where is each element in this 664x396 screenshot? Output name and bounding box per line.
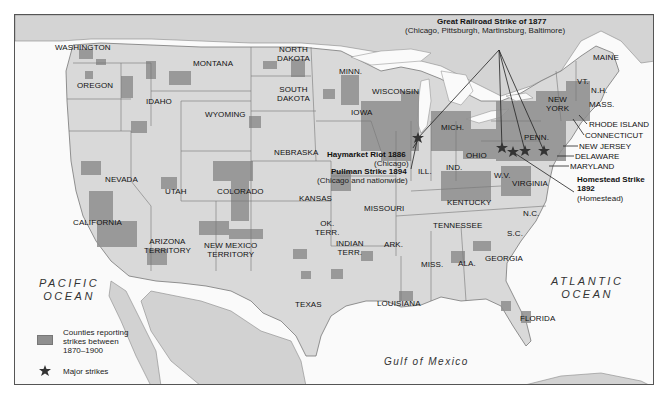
state-label-ala: ALA. <box>458 259 476 268</box>
state-label-kentucky: KENTUCKY <box>447 198 491 207</box>
state-label-montana: MONTANA <box>193 59 233 68</box>
legend-star-icon <box>39 365 51 377</box>
strike-label-haymarket: Haymarket Riot 1886 <box>327 150 406 159</box>
strike-sub-homestead: (Homestead) <box>577 194 623 203</box>
state-label-wisconsin: WISCONSIN <box>372 87 419 96</box>
ocean-label-pacific: PACIFIC OCEAN <box>39 277 99 303</box>
state-label-arizona: ARIZONA TERRITORY <box>144 237 191 255</box>
state-label-louisiana: LOUISIANA <box>377 299 421 308</box>
state-label-penn: PENN. <box>524 133 549 142</box>
state-label-texas: TEXAS <box>295 300 322 309</box>
callout-maryland: MARYLAND <box>570 162 614 171</box>
state-label-nc: N.C. <box>523 209 539 218</box>
legend-major-strikes-label: Major strikes <box>63 367 108 376</box>
state-label-vt: VT. <box>577 77 589 86</box>
callout-connecticut: CONNECTICUT <box>585 131 643 140</box>
state-label-georgia: GEORGIA <box>485 254 523 263</box>
state-label-virginia: VIRGINIA <box>512 179 548 188</box>
state-label-mich: MICH. <box>441 123 464 132</box>
callout-delaware: DELAWARE <box>575 152 619 161</box>
ocean-label-atlantic: ATLANTIC OCEAN <box>551 275 623 301</box>
state-label-ill: ILL. <box>418 167 432 176</box>
gulf-label: Gulf of Mexico <box>384 356 469 367</box>
state-label-indian-terr: INDIAN TERR. <box>336 239 364 257</box>
callout-rhode-island: RHODE ISLAND <box>589 120 649 129</box>
state-label-california: CALIFORNIA <box>73 218 122 227</box>
state-label-idaho: IDAHO <box>146 97 172 106</box>
cuba-landmass <box>521 373 651 385</box>
state-label-ohio: OHIO <box>466 151 487 160</box>
state-label-washington: WASHINGTON <box>55 43 111 52</box>
strike-label-pullman: Pullman Strike 1894 <box>331 167 407 176</box>
state-label-utah: UTAH <box>165 187 187 196</box>
strike-sub-pullman: (Chicago and nationwide) <box>317 176 408 185</box>
state-label-nebraska: NEBRASKA <box>274 148 318 157</box>
legend-counties-label: Counties reporting strikes between 1870–… <box>63 328 128 355</box>
state-label-mass: MASS. <box>589 100 614 109</box>
state-label-wyoming: WYOMING <box>205 110 246 119</box>
strike-label-homestead: Homestead Strike 1892 <box>577 175 645 193</box>
state-label-ark: ARK. <box>384 240 403 249</box>
state-label-new-york: NEW YORK <box>546 95 569 113</box>
legend-county-swatch <box>37 335 53 345</box>
state-label-miss: MISS. <box>421 260 443 269</box>
state-label-nh: N.H. <box>591 86 607 95</box>
strike-sub-great-railroad: (Chicago, Pittsburgh, Martinsburg, Balti… <box>405 26 565 35</box>
state-label-colorado: COLORADO <box>217 187 264 196</box>
state-label-ok-terr: OK. TERR. <box>315 219 340 237</box>
state-label-new-mexico: NEW MEXICO TERRITORY <box>204 241 257 259</box>
state-label-minn: MINN. <box>339 67 362 76</box>
state-label-south-dakota: SOUTH DAKOTA <box>277 85 310 103</box>
state-label-oregon: OREGON <box>77 81 113 90</box>
state-label-kansas: KANSAS <box>299 194 332 203</box>
state-label-nevada: NEVADA <box>105 175 138 184</box>
map-frame: WASHINGTON MONTANA OREGON IDAHO WYOMING … <box>14 14 654 385</box>
state-label-wv: W.V. <box>494 171 511 180</box>
state-label-iowa: IOWA <box>351 108 372 117</box>
callout-new-jersey: NEW JERSEY <box>579 142 631 151</box>
state-label-missouri: MISSOURI <box>364 204 404 213</box>
state-label-sc: S.C. <box>507 229 523 238</box>
state-label-maine: MAINE <box>593 53 619 62</box>
state-label-florida: FLORIDA <box>520 314 555 323</box>
state-label-north-dakota: NORTH DAKOTA <box>277 45 310 63</box>
strike-label-great-railroad: Great Railroad Strike of 1877 <box>437 17 546 26</box>
state-label-ind: IND. <box>446 163 462 172</box>
state-label-tennessee: TENNESSEE <box>433 221 482 230</box>
